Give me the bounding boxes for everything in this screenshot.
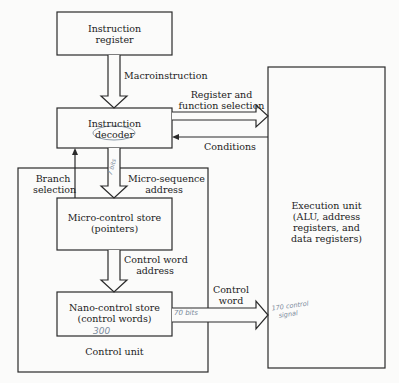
- label-line: (control words): [57, 313, 172, 324]
- label-line: register: [57, 34, 172, 45]
- label-line: Instruction: [57, 23, 172, 34]
- label-line: address: [128, 184, 200, 195]
- label-line: word: [210, 295, 252, 306]
- label-line: Execution unit: [268, 200, 385, 211]
- label-line: Micro-control store: [57, 212, 172, 223]
- execution-unit-label: Execution unit (ALU, address registers, …: [268, 200, 385, 244]
- micro-control-store-label: Micro-control store (pointers): [57, 212, 172, 234]
- label-line: Branch: [33, 173, 73, 184]
- label-line: data registers): [268, 233, 385, 244]
- label-line: function selection: [174, 100, 269, 111]
- macroinstruction-arrow: [101, 55, 127, 108]
- conditions-arrowhead: [172, 134, 179, 140]
- control-word-address-label: Control word address: [124, 254, 186, 276]
- label-line: Register and: [174, 89, 269, 100]
- macroinstruction-label: Macroinstruction: [124, 70, 208, 81]
- label-line: registers, and: [268, 222, 385, 233]
- label-line: Micro-sequence: [128, 173, 200, 184]
- label-line: decoder: [57, 129, 172, 140]
- label-line: Control word: [124, 254, 186, 265]
- branch-selection-label: Branch selection: [33, 173, 73, 195]
- label-line: (pointers): [57, 223, 172, 234]
- label-line: address: [124, 265, 186, 276]
- conditions-label: Conditions: [195, 141, 265, 152]
- micro-sequence-label: Micro-sequence address: [128, 173, 200, 195]
- nano-control-store-label: Nano-control store (control words): [57, 302, 172, 324]
- branch-selection-arrowhead: [72, 148, 78, 155]
- pencil-nano-count: 300: [93, 326, 110, 336]
- control-unit-label: Control unit: [57, 346, 172, 357]
- label-line: selection: [33, 184, 73, 195]
- instruction-register-label: Instruction register: [57, 23, 172, 45]
- label-line: (ALU, address: [268, 211, 385, 222]
- pencil-control-word-bits: 70 bits: [174, 309, 198, 317]
- label-line: Instruction: [57, 118, 172, 129]
- instruction-decoder-label: Instruction decoder: [57, 118, 172, 140]
- label-line: Control: [210, 284, 252, 295]
- micro-sequence-arrow: [101, 148, 127, 198]
- control-word-label: Control word: [210, 284, 252, 306]
- label-line: Nano-control store: [57, 302, 172, 313]
- register-function-label: Register and function selection: [174, 89, 269, 111]
